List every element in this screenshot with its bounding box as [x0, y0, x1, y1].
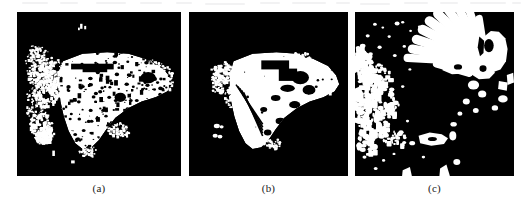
panel-c-image: [355, 12, 514, 176]
panel-b-caption: (b): [189, 182, 348, 195]
panel-c-caption: (c): [355, 182, 514, 195]
figure-panel-b: (b): [189, 12, 348, 198]
figure-root: (a) (b) (c): [0, 0, 523, 205]
panel-a-image: [17, 12, 181, 176]
cropped-text-residue: [0, 0, 523, 7]
panel-a-caption: (a): [17, 182, 181, 195]
figure-panel-a: (a): [17, 12, 181, 198]
panel-b-image: [189, 12, 348, 176]
figure-panel-c: (c): [355, 12, 514, 198]
